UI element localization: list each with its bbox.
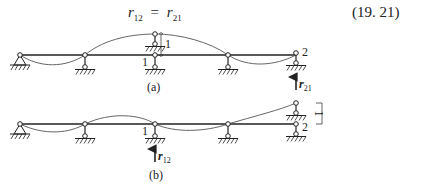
link-support-a-3 xyxy=(218,53,238,75)
link-support-b-3 xyxy=(218,122,238,144)
node1-label-a: 1 xyxy=(142,55,148,70)
node1-label-b: 1 xyxy=(142,124,148,139)
node2-label-a: 2 xyxy=(302,45,308,60)
reaction-label-r21: r21 xyxy=(299,77,312,93)
beam-diagrams xyxy=(0,0,424,193)
displaced-node-2-b xyxy=(286,101,306,121)
reaction-sub-a: 21 xyxy=(304,84,312,93)
reaction-sub-b: 12 xyxy=(163,156,171,165)
link-support-b-1 xyxy=(75,122,95,144)
deflection-curve-b xyxy=(20,103,296,132)
link-support-b-node1 xyxy=(145,122,165,144)
displaced-node-1-a xyxy=(145,32,165,52)
caption-b: (b) xyxy=(149,168,163,183)
link-support-a-1 xyxy=(75,53,95,75)
displacement-label-b: 1 xyxy=(311,111,326,117)
node2-label-b: 2 xyxy=(302,120,308,135)
deflection-curve-a xyxy=(20,34,296,65)
displacement-label-a: 1 xyxy=(165,37,171,52)
reaction-label-r12: r12 xyxy=(158,149,171,165)
caption-a: (a) xyxy=(147,80,160,95)
